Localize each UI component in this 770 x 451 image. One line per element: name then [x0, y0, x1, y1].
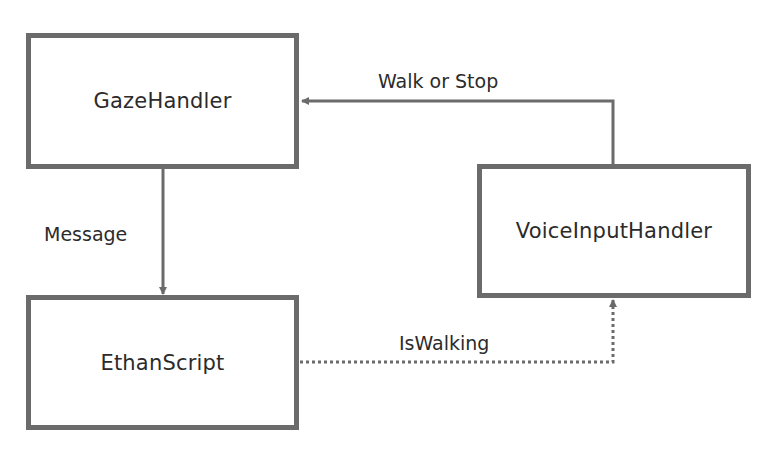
- edge-label-walk-or-stop: Walk or Stop: [378, 70, 498, 92]
- edge-label-message: Message: [44, 223, 127, 245]
- edge-label-is-walking: IsWalking: [399, 332, 489, 354]
- node-voice-input-handler: VoiceInputHandler: [477, 164, 751, 298]
- node-voice-input-handler-label: VoiceInputHandler: [516, 219, 712, 243]
- node-ethan-script-label: EthanScript: [100, 351, 224, 375]
- node-gaze-handler-label: GazeHandler: [94, 89, 232, 113]
- node-gaze-handler: GazeHandler: [26, 33, 299, 169]
- edge-walk-or-stop: [302, 101, 613, 166]
- node-ethan-script: EthanScript: [26, 295, 299, 430]
